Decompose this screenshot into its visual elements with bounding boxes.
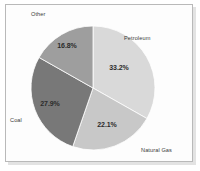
category-label-natural-gas: Natural Gas bbox=[141, 147, 172, 153]
slice-percent-other: 16.8% bbox=[57, 42, 76, 49]
slice-percent-coal: 27.9% bbox=[40, 100, 59, 107]
slice-percent-natural-gas: 22.1% bbox=[97, 121, 116, 128]
pie-chart-svg bbox=[0, 0, 200, 171]
slice-percent-petroleum: 33.2% bbox=[109, 64, 128, 71]
category-label-other: Other bbox=[31, 11, 46, 17]
category-label-petroleum: Petroleum bbox=[124, 35, 150, 41]
pie-slice-group bbox=[31, 26, 155, 150]
category-label-coal: Coal bbox=[10, 117, 22, 123]
pie-chart-figure: 33.2%22.1%27.9%16.8% PetroleumNatural Ga… bbox=[0, 0, 200, 171]
